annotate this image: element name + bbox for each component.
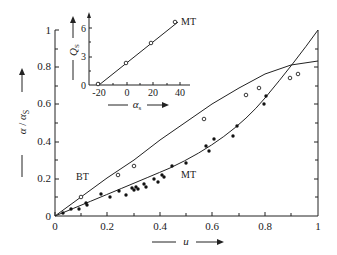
y-tick: 0.6 bbox=[37, 97, 51, 109]
inset-y-tick: 0 bbox=[81, 80, 86, 91]
y-tick: 1 bbox=[46, 24, 52, 36]
x-axis-label: u bbox=[152, 235, 224, 247]
x-tick: 0.6 bbox=[205, 220, 219, 232]
x-tick-labels: 0 0.2 0.4 0.6 0.8 1 bbox=[52, 220, 321, 232]
inset-chart: MT -20 0 20 40 0 3 6 αs QS bbox=[67, 12, 196, 112]
inset-y-label: Q bbox=[67, 48, 79, 56]
chart: 0 0.2 0.4 0.6 0.8 1 0 0.2 0.4 0.6 0.8 1 … bbox=[0, 0, 337, 255]
svg-text:QS: QS bbox=[67, 44, 81, 56]
x-tick: 0.2 bbox=[100, 220, 114, 232]
arrow-up-icon bbox=[70, 16, 76, 23]
inset-x-tick: -20 bbox=[92, 87, 105, 98]
main-axes bbox=[55, 30, 318, 216]
y-tick: 0 bbox=[46, 210, 52, 222]
y-tick: 0.2 bbox=[37, 172, 51, 184]
y-tick: 0.8 bbox=[37, 60, 51, 72]
inset-x-tick: 20 bbox=[148, 87, 158, 98]
fit-curves bbox=[55, 30, 318, 216]
inset-mt-annotation: MT bbox=[181, 16, 196, 27]
bt-annotation: BT bbox=[76, 171, 89, 182]
inset-y-tick: 3 bbox=[81, 51, 86, 62]
inset-y-tick: 6 bbox=[81, 23, 86, 34]
y-axis-label: α / αS bbox=[16, 68, 31, 177]
x-tick: 0.4 bbox=[153, 220, 167, 232]
arrow-up-icon bbox=[19, 68, 25, 75]
y-tick-labels: 0 0.2 0.4 0.6 0.8 1 bbox=[37, 24, 51, 222]
svg-text:αs: αs bbox=[133, 98, 142, 112]
inset-x-tick: 0 bbox=[125, 87, 130, 98]
inset-x-tick: 40 bbox=[175, 87, 185, 98]
y-tick: 0.4 bbox=[37, 135, 51, 147]
x-tick: 0 bbox=[52, 220, 58, 232]
mt-points bbox=[61, 94, 267, 214]
mt-curve bbox=[55, 30, 318, 216]
arrow-right-icon bbox=[217, 239, 224, 245]
bt-curve bbox=[55, 61, 318, 216]
x-label-text: u bbox=[183, 235, 189, 247]
x-tick: 0.8 bbox=[258, 220, 272, 232]
mt-annotation: MT bbox=[181, 169, 196, 180]
x-tick: 1 bbox=[315, 220, 321, 232]
inset-points bbox=[96, 20, 177, 86]
svg-text:α / αS: α / αS bbox=[16, 110, 31, 135]
arrow-right-icon bbox=[162, 102, 169, 108]
